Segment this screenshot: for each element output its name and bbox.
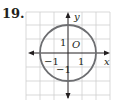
x-axis-label: x [104,56,110,67]
y-axis-label: y [73,11,80,22]
y-tick-neg: −1 [56,64,71,75]
x-tick-pos: 1 [78,56,84,67]
y-tick-pos: 1 [60,37,66,48]
origin-label: O [72,39,80,50]
x-axis-arrow-left [28,51,34,56]
coordinate-graph: y x O 1 1 −1 −1 [0,0,121,110]
y-axis-arrow-up [66,12,71,18]
x-axis-arrow-right [104,51,110,56]
y-axis-arrow-down [66,93,71,99]
